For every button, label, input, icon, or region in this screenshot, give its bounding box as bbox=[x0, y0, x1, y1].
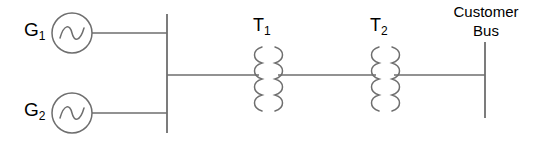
generator-g1-label: G1 bbox=[24, 20, 45, 39]
generator-g2-label: G2 bbox=[24, 100, 45, 119]
transformer-t2-label-text: T bbox=[370, 15, 381, 35]
transformer-t1-secondary-winding bbox=[275, 47, 283, 111]
transformer-t1-label: T1 bbox=[253, 16, 271, 34]
generator-g2 bbox=[52, 93, 167, 133]
transformer-t1 bbox=[255, 47, 283, 111]
transformer-t1-label-subscript: 1 bbox=[264, 24, 271, 38]
transformer-t2-primary-winding bbox=[372, 47, 380, 111]
generator-g2-label-subscript: 2 bbox=[39, 109, 46, 123]
transformer-t2 bbox=[372, 47, 400, 111]
one-line-diagram: G1 G2 T1 T2 Customer Bus bbox=[0, 0, 549, 145]
customer-bus-label-line2: Bus bbox=[440, 22, 532, 41]
transformer-t2-label: T2 bbox=[370, 16, 388, 34]
generator-g1-label-text: G bbox=[24, 19, 39, 40]
transformer-t1-primary-winding bbox=[255, 47, 263, 111]
customer-bus-label-line1: Customer bbox=[440, 3, 532, 22]
transformer-t2-secondary-winding bbox=[392, 47, 400, 111]
generator-g1-label-subscript: 1 bbox=[39, 29, 46, 43]
transformer-t1-label-text: T bbox=[253, 15, 264, 35]
transformer-t2-label-subscript: 2 bbox=[381, 24, 388, 38]
generator-g2-label-text: G bbox=[24, 99, 39, 120]
customer-bus-label: Customer Bus bbox=[440, 3, 532, 41]
generator-g1 bbox=[52, 13, 167, 53]
